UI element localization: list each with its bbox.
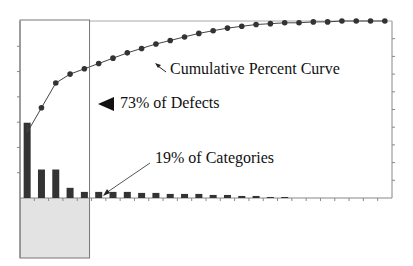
defect-bar	[67, 188, 74, 198]
defect-bar	[267, 197, 274, 198]
defect-bar	[38, 170, 45, 198]
defect-bar	[224, 195, 231, 198]
categories-arrowhead-icon	[103, 189, 110, 196]
cumulative-point	[39, 105, 45, 111]
cumulative-point	[96, 61, 102, 67]
defect-bar	[138, 193, 145, 198]
cumulative-point	[311, 19, 317, 25]
left-triangle-icon	[98, 97, 114, 111]
defect-bar	[167, 194, 174, 198]
pareto-chart	[0, 0, 413, 266]
cumulative-point	[253, 22, 259, 28]
cumulative-point	[382, 18, 388, 24]
defect-bar	[52, 170, 59, 198]
defect-bar	[124, 192, 131, 198]
cumulative-curve-label: Cumulative Percent Curve	[170, 60, 340, 78]
curve-pointer-arrow	[158, 66, 166, 72]
defect-bar	[24, 123, 31, 198]
defect-bar	[238, 196, 245, 198]
cumulative-point	[325, 19, 331, 25]
cumulative-point	[268, 21, 274, 27]
cumulative-point	[368, 18, 374, 24]
categories-percent-label: 19% of Categories	[155, 149, 274, 167]
categories-pointer-arrow	[106, 163, 150, 193]
annotation-arrows	[98, 63, 166, 196]
defect-bar	[181, 194, 188, 198]
defect-bar	[152, 193, 159, 198]
defect-bar	[195, 194, 202, 198]
cumulative-point	[282, 20, 288, 26]
defect-bar	[210, 195, 217, 198]
cumulative-point	[210, 28, 216, 34]
cumulative-point	[353, 18, 359, 24]
defect-bar	[253, 196, 260, 198]
defect-bar	[95, 192, 102, 198]
cumulative-point	[153, 41, 159, 47]
defects-percent-label: 73% of Defects	[120, 94, 220, 112]
cumulative-point	[196, 31, 202, 37]
cumulative-point	[182, 34, 188, 40]
defect-bar	[110, 192, 117, 198]
cumulative-point	[225, 25, 231, 31]
defect-bar	[281, 197, 288, 198]
cumulative-point	[82, 66, 88, 72]
shaded-region-below-axis	[20, 198, 90, 258]
highlight-shaded-region	[20, 198, 90, 258]
cumulative-point	[53, 80, 59, 86]
cumulative-point	[110, 55, 116, 61]
defect-bar	[81, 192, 88, 198]
cumulative-point	[167, 38, 173, 44]
cumulative-point	[339, 18, 345, 24]
cumulative-point	[125, 50, 131, 56]
cumulative-point	[239, 24, 245, 30]
cumulative-point	[296, 20, 302, 26]
cumulative-point	[139, 46, 145, 52]
cumulative-point	[67, 71, 73, 77]
